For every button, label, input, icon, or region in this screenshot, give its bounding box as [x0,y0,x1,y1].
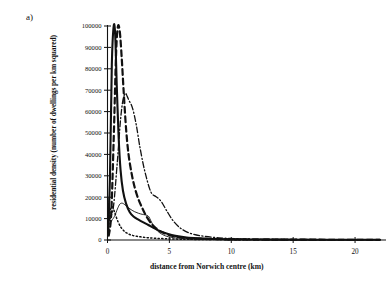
chart-series-series-5-dotted [108,207,380,240]
chart-plot-area: 0100002000030000400005000060000700008000… [0,0,392,289]
x-tick-label: 20 [351,248,359,256]
y-tick-label: 90000 [85,44,102,51]
y-tick-label: 10000 [85,215,102,222]
x-tick-label: 15 [290,248,298,256]
y-tick-label: 20000 [85,194,102,201]
chart-series-series-2-thick-dashed [109,25,380,240]
x-tick-label: 0 [106,248,110,256]
y-tick-label: 70000 [85,87,102,94]
chart-series-series-3-dash-dot [108,93,380,239]
y-tick-label: 100000 [82,22,102,29]
y-tick-label: 80000 [85,65,102,72]
x-tick-label: 5 [168,248,172,256]
y-tick-label: 40000 [85,151,102,158]
chart-series-group [108,24,380,240]
y-tick-label: 0 [98,236,102,243]
y-tick-label: 60000 [85,108,102,115]
chart-series-series-1-thick-solid [108,24,380,240]
y-axis-ticks: 0100002000030000400005000060000700008000… [82,22,111,243]
x-tick-label: 10 [228,248,236,256]
y-tick-label: 30000 [85,172,102,179]
y-tick-label: 50000 [85,129,102,136]
figure-panel: a) residential density (number of dwelli… [0,0,392,289]
